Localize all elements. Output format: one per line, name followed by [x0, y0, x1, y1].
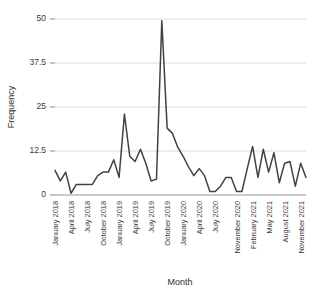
y-tick-label: 25 [37, 101, 47, 111]
x-axis-title: Month [167, 277, 192, 287]
line-chart: 012.52537.550 January 2018April 2018July… [0, 0, 322, 298]
y-tick-label: 50 [37, 13, 47, 23]
x-tick-label: November 2021 [297, 201, 306, 254]
y-tick-label: 0 [41, 189, 46, 199]
x-tick-label: November 2020 [233, 201, 242, 254]
x-tick-label: April 2018 [67, 201, 76, 234]
x-tick-label: April 2019 [131, 201, 140, 234]
x-tick-label: July 2019 [147, 201, 156, 233]
x-tick-label: April 2020 [195, 201, 204, 234]
x-tick-label: August 2021 [281, 201, 290, 243]
x-tick-label: January 2020 [179, 201, 188, 246]
x-tick-label: July 2018 [83, 201, 92, 233]
x-tick-label: January 2019 [115, 201, 124, 246]
x-tick-label: May 2021 [265, 201, 274, 233]
x-tick-label: July 2020 [211, 201, 220, 233]
y-tick-label: 37.5 [29, 57, 46, 67]
y-axis-title: Frequency [6, 85, 16, 128]
x-tick-label: February 2021 [249, 201, 258, 249]
x-tick-label: October 2018 [99, 201, 108, 246]
x-tick-label: October 2019 [163, 201, 172, 246]
x-tick-label: January 2018 [51, 201, 60, 246]
y-tick-label: 12.5 [29, 145, 46, 155]
chart-canvas: 012.52537.550 January 2018April 2018July… [0, 0, 322, 298]
